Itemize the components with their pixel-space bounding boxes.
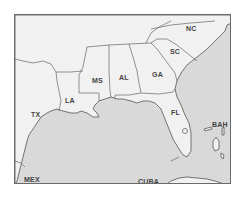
label-al: AL (119, 74, 129, 81)
label-bah: BAH (212, 121, 228, 128)
label-ga: GA (152, 71, 163, 78)
label-ms: MS (92, 77, 103, 84)
label-cuba: CUBA (138, 178, 159, 184)
label-fl: FL (171, 109, 180, 116)
label-tx: TX (31, 111, 40, 118)
map-svg (15, 15, 231, 184)
us-mainland (15, 15, 231, 184)
label-nc: NC (186, 25, 197, 32)
map-frame: NC SC GA AL MS LA TX FL BAH MEX CUBA (14, 14, 231, 184)
bahamas-island-4 (221, 153, 224, 159)
label-mex: MEX (24, 176, 40, 183)
florida-keys (171, 157, 179, 161)
bahamas-island-1 (213, 137, 219, 151)
bahamas-island-2 (222, 127, 224, 135)
label-sc: SC (170, 48, 180, 55)
lake-okeechobee (183, 129, 188, 134)
cuba-landmass (165, 177, 227, 184)
label-la: LA (65, 97, 75, 104)
bahamas-island-3 (204, 127, 212, 131)
